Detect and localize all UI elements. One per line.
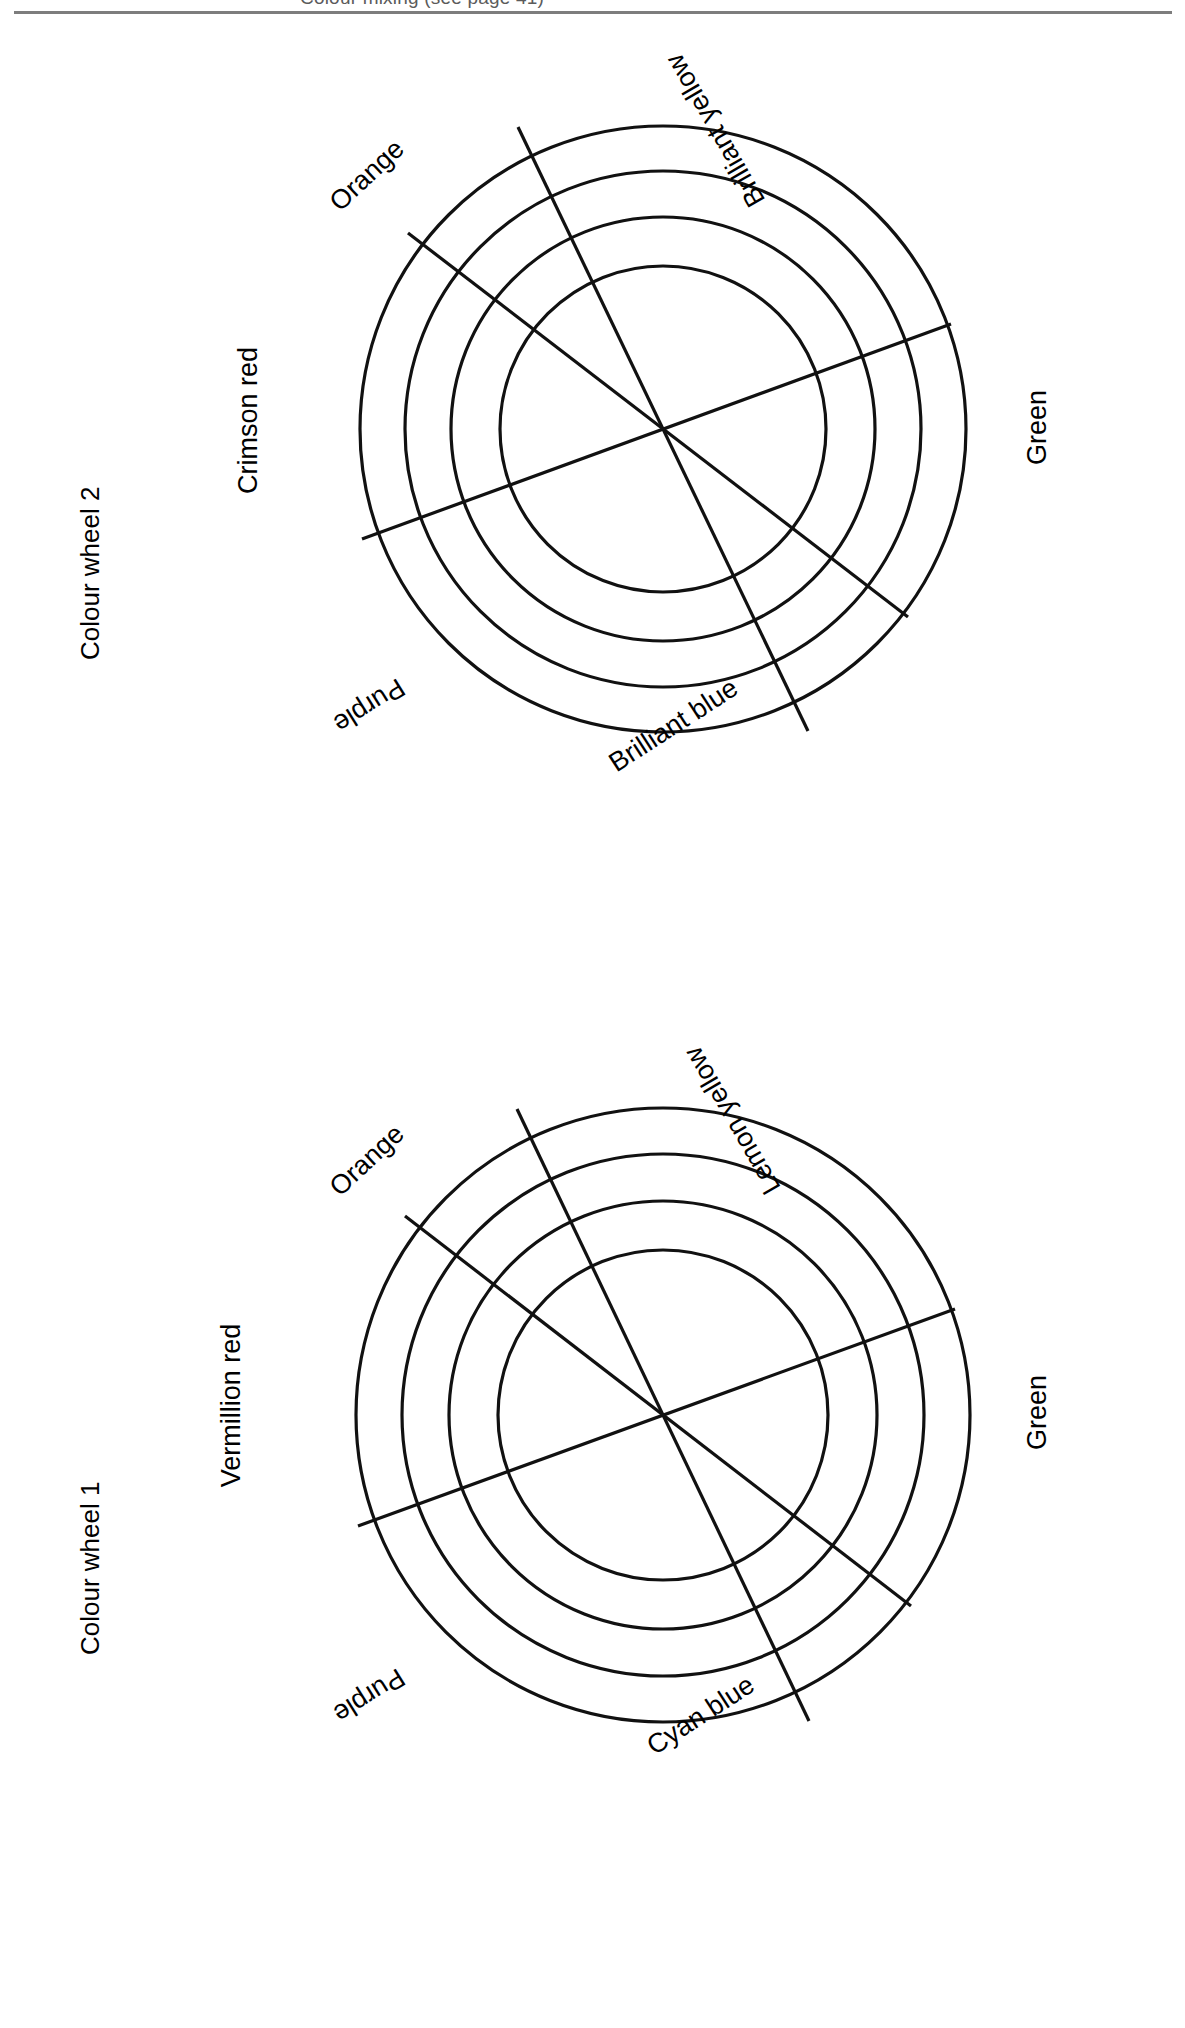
sector-label-vermillion-red: Vermillion red xyxy=(216,1324,247,1488)
document-page: Colour mixing (see page 41) Colour wheel… xyxy=(0,0,1185,2028)
sector-label-green: Green xyxy=(1022,1375,1053,1450)
sector-label-crimson-red: Crimson red xyxy=(233,347,264,494)
colour-wheel-2-block: Colour wheel 2 Orange Brilliant yellow G… xyxy=(0,60,1185,840)
sector-label-green: Green xyxy=(1022,390,1053,465)
colour-wheel-1-diagram xyxy=(0,1045,1185,1835)
sector-divider-b xyxy=(405,1216,911,1606)
colour-wheel-1-block: Colour wheel 1 Orange Lemon yellow Green… xyxy=(0,1045,1185,1835)
clipped-header-text: Colour mixing (see page 41) xyxy=(300,0,900,9)
header-divider xyxy=(14,11,1172,14)
colour-wheel-2-diagram xyxy=(0,60,1185,840)
sector-divider-b xyxy=(408,233,908,617)
